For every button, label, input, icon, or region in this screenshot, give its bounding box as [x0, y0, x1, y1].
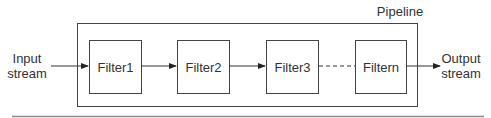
connectors: [0, 0, 491, 118]
